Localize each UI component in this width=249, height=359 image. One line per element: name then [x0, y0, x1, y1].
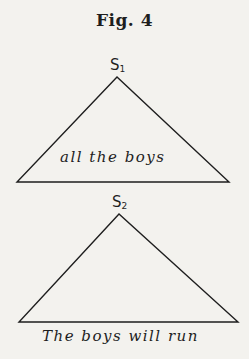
node-symbol: S [110, 56, 120, 74]
node-symbol: S [112, 193, 122, 211]
node-subscript: 2 [122, 201, 128, 211]
triangle-s2 [19, 214, 238, 322]
phrase-s2: The boys will run [42, 327, 199, 345]
node-label-s2: S2 [112, 193, 127, 211]
triangle-s1 [17, 77, 229, 182]
node-label-s1: S1 [110, 56, 125, 74]
tree-diagram [0, 0, 249, 359]
node-subscript: 1 [120, 64, 126, 74]
phrase-s1: all the boys [60, 148, 165, 166]
